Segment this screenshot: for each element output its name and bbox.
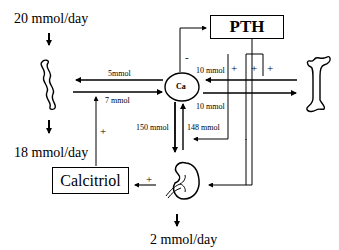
ca-to-kidney-label: 150 mmol: [136, 124, 169, 132]
intestine-icon: [41, 60, 55, 109]
pth-bone-plus-1: +: [231, 63, 237, 74]
calcitriol-gut-plus: +: [100, 126, 106, 137]
urine-label: 2 mmol/day: [150, 233, 217, 247]
kidney-to-ca-label: 148 mmol: [187, 124, 220, 132]
fecal-label: 18 mmol/day: [14, 146, 88, 160]
bone-to-ca-label: 10 mmol: [196, 67, 225, 75]
diagram-lines: [0, 0, 339, 250]
pth-box: PTH: [210, 15, 284, 39]
pth-bone-plus-3: +: [267, 63, 273, 74]
calcium-homeostasis-diagram: 20 mmol/day 18 mmol/day 2 mmol/day PTH C…: [0, 0, 339, 250]
pth-bone-plus-2: +: [251, 63, 257, 74]
ca-inhibits-pth-sign: -: [185, 52, 189, 63]
pth-effect-lines: [194, 38, 263, 185]
ca-to-gut-label: 5mmol: [108, 70, 131, 78]
calcitriol-box: Calcitriol: [52, 167, 129, 194]
kidney-calcitriol-plus: +: [146, 174, 152, 185]
intake-label: 20 mmol/day: [14, 12, 88, 26]
ca-label: Ca: [176, 83, 186, 91]
pth-label: PTH: [230, 17, 265, 37]
kidney-icon: [166, 163, 199, 199]
ca-to-bone-label: 10 mmol: [196, 103, 225, 111]
gut-to-ca-label: 7 mmol: [105, 97, 130, 105]
bone-icon: [307, 57, 330, 112]
calcitriol-label: Calcitriol: [60, 172, 120, 190]
